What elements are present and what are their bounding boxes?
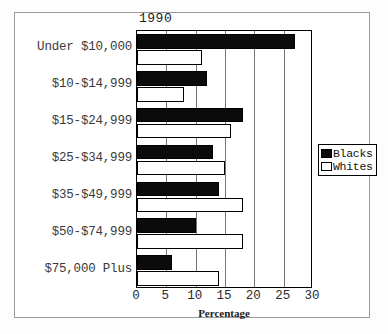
bar-whites: [137, 271, 219, 286]
x-axis-tick-labels: 051015202530: [136, 289, 312, 307]
legend-item-blacks: Blacks: [321, 147, 373, 160]
y-tick-label: $50-$74,999: [4, 225, 132, 239]
bar-blacks: [137, 108, 243, 123]
x-tick-label: 15: [216, 289, 231, 303]
bar-blacks: [137, 145, 213, 160]
x-tick-label: 0: [132, 289, 140, 303]
chart-legend: Blacks Whites: [318, 144, 377, 176]
bar-whites: [137, 50, 202, 65]
x-tick-label: 25: [275, 289, 290, 303]
x-axis-title: Percentage: [136, 307, 312, 319]
bar-blacks: [137, 255, 172, 270]
legend-label-whites: Whites: [333, 160, 373, 173]
bars-layer: [137, 31, 311, 287]
bar-group: [137, 142, 311, 179]
chart-figure: 1990 Under $10,000$10-$14,999$15-$24,999…: [0, 0, 388, 334]
bar-group: [137, 68, 311, 105]
bar-whites: [137, 198, 243, 213]
x-tick-label: 5: [162, 289, 170, 303]
legend-swatch-blacks: [321, 149, 332, 158]
y-tick-label: Under $10,000: [4, 40, 132, 54]
y-tick-label: $10-$14,999: [4, 77, 132, 91]
legend-swatch-whites: [321, 162, 332, 171]
chart-title: 1990: [139, 11, 172, 26]
plot-area: [136, 30, 312, 288]
bar-blacks: [137, 71, 207, 86]
bar-whites: [137, 161, 225, 176]
x-tick-label: 10: [187, 289, 202, 303]
x-tick-label: 20: [246, 289, 261, 303]
bar-whites: [137, 87, 184, 102]
bar-group: [137, 31, 311, 68]
bar-blacks: [137, 182, 219, 197]
y-axis-tick-labels: Under $10,000$10-$14,999$15-$24,999$25-$…: [2, 30, 132, 288]
bar-whites: [137, 234, 243, 249]
bar-blacks: [137, 218, 196, 233]
bar-group: [137, 178, 311, 215]
bar-whites: [137, 124, 231, 139]
legend-item-whites: Whites: [321, 160, 373, 173]
y-tick-label: $75,000 Plus: [4, 262, 132, 276]
x-tick-label: 30: [304, 289, 319, 303]
bar-group: [137, 105, 311, 142]
bar-group: [137, 252, 311, 289]
bar-blacks: [137, 34, 295, 49]
legend-label-blacks: Blacks: [333, 147, 373, 160]
y-tick-label: $15-$24,999: [4, 114, 132, 128]
y-tick-label: $35-$49,999: [4, 188, 132, 202]
y-tick-label: $25-$34,999: [4, 151, 132, 165]
bar-group: [137, 215, 311, 252]
